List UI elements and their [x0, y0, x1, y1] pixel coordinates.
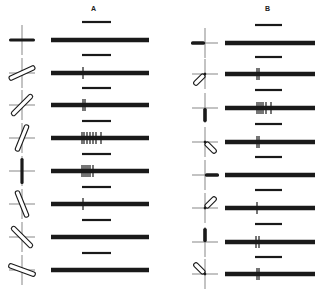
orientation-rod-icon: [205, 173, 219, 177]
orientation-rod-icon: [191, 41, 205, 45]
orientation-rod-icon: [9, 38, 35, 41]
orientation-rod-icon: [203, 108, 207, 122]
orientation-rod-icon: [203, 228, 207, 242]
diagram-canvas: [0, 0, 321, 291]
orientation-rod-icon: [20, 158, 23, 184]
